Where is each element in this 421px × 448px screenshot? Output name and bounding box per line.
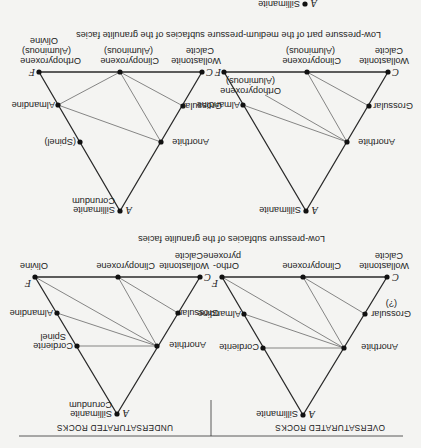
svg-text:Calcite: Calcite [186, 46, 214, 56]
svg-text:pyroxene: pyroxene [203, 251, 241, 261]
svg-text:F: F [214, 67, 222, 78]
svg-text:Cordierite: Cordierite [219, 342, 259, 352]
svg-text:Wollastonite: Wollastonite [159, 261, 209, 271]
svg-text:Orthopyroxene: Orthopyroxene [220, 86, 281, 96]
svg-text:Calcite: Calcite [375, 251, 403, 261]
svg-text:Almandine: Almandine [12, 100, 55, 110]
header-oversaturated: OVERSATURATED ROCKS [275, 423, 385, 433]
svg-text:C: C [392, 67, 399, 78]
svg-text:(Aluminous): (Aluminous) [104, 46, 153, 56]
svg-text:Clinopyroxene: Clinopyroxene [282, 56, 341, 66]
svg-text:Clinopyroxene: Clinopyroxene [282, 261, 341, 271]
svg-text:Corundum: Corundum [72, 196, 115, 206]
diagram-oversaturated-medium-pressure: A Sillimanite Anorthite Grossular Almand… [197, 46, 413, 216]
svg-text:Corundum: Corundum [69, 400, 112, 410]
svg-text:A: A [125, 205, 133, 216]
svg-text:F: F [211, 278, 219, 289]
svg-text:Wollastonite: Wollastonite [171, 56, 221, 66]
svg-text:(Aluminous): (Aluminous) [226, 76, 275, 86]
svg-text:Grossular: Grossular [182, 101, 222, 111]
svg-text:Grossular: Grossular [371, 309, 411, 319]
svg-text:Calcite: Calcite [375, 46, 403, 56]
svg-text:(Aluminous): (Aluminous) [286, 46, 335, 56]
svg-text:Olivine: Olivine [30, 36, 58, 46]
svg-text:Anorthite: Anorthite [169, 340, 206, 350]
diagram-undersaturated-medium-pressure: A Sillimanite Corundum Anorthite (Spinel… [12, 36, 222, 216]
svg-text:A: A [310, 0, 318, 9]
svg-text:(?): (?) [386, 299, 397, 309]
svg-text:Calcite: Calcite [175, 251, 203, 261]
svg-text:C: C [204, 272, 211, 283]
svg-text:A: A [311, 205, 319, 216]
svg-text:A: A [122, 408, 130, 419]
svg-text:F: F [24, 278, 32, 289]
svg-text:Sillimanite: Sillimanite [256, 409, 298, 419]
svg-text:C: C [392, 272, 399, 283]
svg-text:Grossular: Grossular [179, 308, 219, 318]
svg-text:Anorthite: Anorthite [172, 137, 209, 147]
svg-text:(Spinel): (Spinel) [44, 137, 76, 147]
svg-text:Sillimanite: Sillimanite [258, 0, 300, 9]
svg-text:Ortho-: Ortho- [213, 261, 239, 271]
svg-text:Grossular: Grossular [373, 101, 413, 111]
svg-text:C: C [206, 67, 213, 78]
svg-text:(Aluminous): (Aluminous) [22, 46, 71, 56]
svg-text:Sillimanite: Sillimanite [259, 205, 301, 215]
caption-medium-pressure: Low-pressure part of the medium-pressure… [76, 30, 381, 40]
next-diagram-apex: A Sillimanite [258, 0, 318, 9]
header-undersaturated: UNDERSATURATED ROCKS [57, 423, 173, 433]
svg-text:Clinopyroxene: Clinopyroxene [100, 56, 159, 66]
svg-text:A: A [308, 409, 316, 420]
svg-text:Anorthite: Anorthite [361, 342, 398, 352]
svg-text:Clinopyroxene: Clinopyroxene [96, 261, 155, 271]
svg-text:Wollastonite: Wollastonite [359, 261, 409, 271]
svg-text:Olivine: Olivine [20, 261, 48, 271]
svg-text:Spinel: Spinel [40, 332, 66, 342]
caption-low-pressure: Low-pressure subfacies of the granulite … [138, 234, 325, 244]
svg-text:Anorthite: Anorthite [358, 137, 395, 147]
acf-diagram-figure: OVERSATURATED ROCKS UNDERSATURATED ROCKS… [0, 0, 421, 448]
svg-text:Almandine: Almandine [10, 308, 53, 318]
svg-text:Wollastonite: Wollastonite [359, 56, 409, 66]
diagram-undersaturated-low-pressure: A Sillimanite Corundum Anorthite Cordier… [10, 251, 219, 419]
diagram-oversaturated-low-pressure: A Sillimanite Anorthite Cordierite Gross… [198, 251, 411, 420]
svg-text:F: F [28, 67, 36, 78]
svg-text:Orthopyroxene: Orthopyroxene [20, 56, 81, 66]
